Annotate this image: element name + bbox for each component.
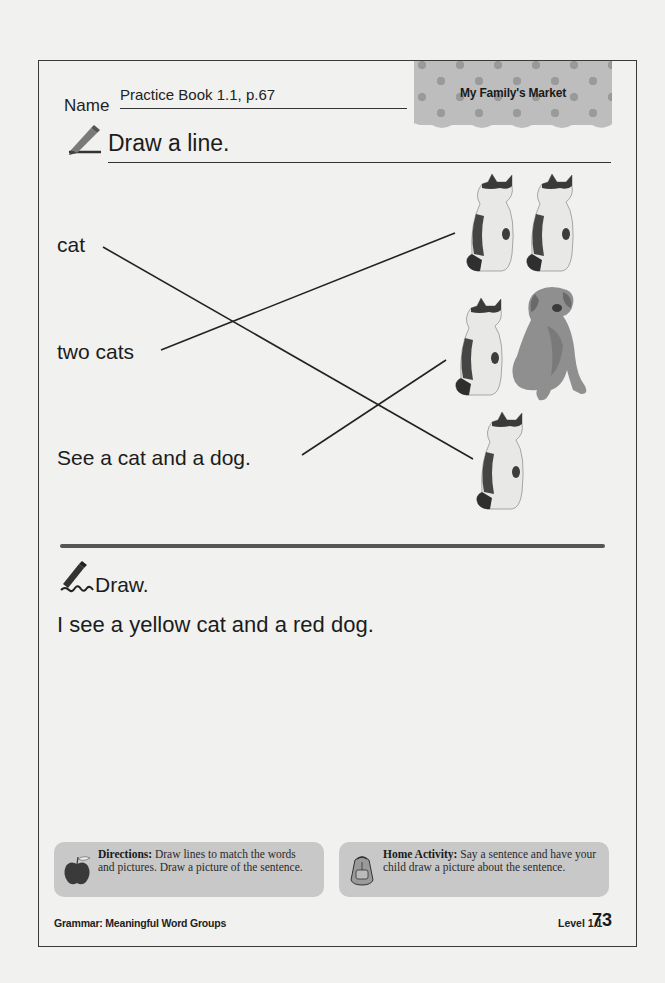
one-cat-picture[interactable] (472, 412, 532, 512)
section-title-draw: Draw. (95, 573, 149, 597)
pencil-writing-icon (57, 560, 97, 594)
two-cats-picture[interactable] (462, 174, 582, 274)
banner-wave-edge (414, 119, 612, 131)
name-underline (120, 108, 407, 109)
cat-icon (477, 412, 523, 509)
directions-text: Directions: Draw lines to match the word… (98, 848, 314, 873)
match-word-cat-and-dog[interactable]: See a cat and a dog. (57, 446, 251, 470)
banner-title: My Family's Market (414, 86, 612, 100)
home-activity-note: Home Activity: Say a sentence and have y… (339, 842, 609, 897)
name-label: Name (64, 96, 109, 116)
section-title-draw-line: Draw a line. (108, 130, 229, 157)
home-activity-label: Home Activity: (383, 848, 457, 860)
page-number: 73 (592, 910, 612, 931)
cat-icon (456, 298, 502, 395)
section-draw-line-heading (61, 120, 105, 156)
footer-topic: Grammar: Meaningful Word Groups (54, 917, 226, 929)
match-word-cat[interactable]: cat (57, 233, 85, 257)
section-divider (60, 544, 605, 548)
match-word-two-cats[interactable]: two cats (57, 340, 134, 364)
dog-icon (512, 287, 586, 400)
apple-icon (62, 854, 92, 886)
cat-and-dog-picture[interactable] (451, 286, 593, 410)
banner: My Family's Market (414, 61, 612, 125)
pencil-icon (61, 120, 105, 156)
name-field-value[interactable]: Practice Book 1.1, p.67 (120, 86, 275, 103)
backpack-icon (347, 854, 377, 886)
worksheet-page: Name Practice Book 1.1, p.67 My Family's… (0, 0, 665, 983)
drawing-prompt: I see a yellow cat and a red dog. (57, 612, 374, 638)
directions-label: Directions: (98, 848, 152, 860)
home-activity-text: Home Activity: Say a sentence and have y… (383, 848, 599, 873)
cat-icon (467, 174, 513, 271)
directions-note: Directions: Draw lines to match the word… (54, 842, 324, 897)
cat-icon (527, 174, 573, 271)
section-title-underline (108, 162, 611, 163)
